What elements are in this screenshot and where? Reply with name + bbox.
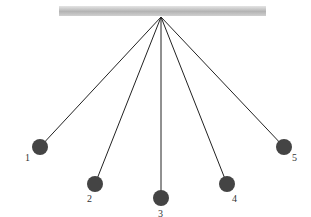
pendulum-label-4: 4 — [232, 193, 237, 204]
pendulum-string-1 — [40, 17, 161, 147]
pendulum-string-2 — [95, 17, 161, 184]
pendulum-diagram: 12345 — [0, 0, 311, 217]
pendulum-string-4 — [161, 17, 227, 184]
pendulum-label-5: 5 — [292, 152, 297, 163]
support-bar — [59, 6, 266, 16]
pendulum-bob-3 — [153, 190, 169, 206]
pendulum-string-5 — [161, 17, 284, 147]
pendulum-label-3: 3 — [158, 208, 163, 217]
pendulum-bob-5 — [276, 139, 292, 155]
strings — [40, 17, 284, 198]
pendulum-bobs — [32, 139, 292, 206]
pendulum-label-1: 1 — [25, 152, 30, 163]
pendulum-bob-4 — [219, 176, 235, 192]
pendulum-bob-2 — [87, 176, 103, 192]
pendulum-bob-1 — [32, 139, 48, 155]
pendulum-label-2: 2 — [87, 193, 92, 204]
